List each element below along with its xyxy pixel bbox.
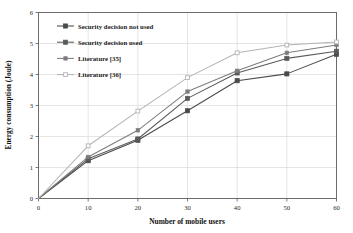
data-point-marker-3-1: [86, 155, 89, 158]
x-tick-label: 60: [333, 204, 340, 211]
legend-item-2[interactable]: Security decision used: [57, 39, 142, 46]
data-point-marker-4-1: [86, 144, 90, 148]
data-point-marker-1-4: [235, 79, 239, 83]
x-tick-label: 50: [284, 204, 291, 211]
y-tick-label: 3: [30, 102, 34, 109]
legend-label-3: Literature [35]: [78, 55, 121, 63]
series-group: [39, 40, 339, 198]
legend-label-2: Security decision used: [78, 39, 142, 46]
chart-canvas: 0123456 0102030405060 Number of mobile u…: [0, 0, 353, 233]
data-point-marker-legend-3: [64, 57, 67, 60]
data-point-marker-4-6: [335, 40, 339, 44]
data-point-marker-4-3: [186, 76, 190, 80]
x-axis-ticks: 0102030405060: [37, 199, 341, 211]
data-point-marker-2-6: [334, 49, 338, 53]
legend-item-3[interactable]: Literature [35]: [57, 55, 121, 63]
data-point-marker-3-4: [235, 69, 238, 72]
data-point-marker-3-5: [285, 51, 288, 54]
data-point-marker-legend-1: [63, 24, 67, 28]
data-point-marker-4-2: [136, 109, 140, 113]
x-tick-label: 10: [85, 204, 92, 211]
x-axis-title: Number of mobile users: [149, 217, 225, 226]
legend: Security decision not usedSecurity decis…: [57, 23, 154, 80]
series-3: [39, 43, 339, 198]
y-tick-label: 0: [30, 195, 34, 202]
y-tick-label: 4: [30, 71, 34, 78]
y-axis-ticks: 0123456: [30, 9, 39, 202]
x-tick-label: 20: [135, 204, 142, 211]
y-tick-label: 5: [30, 40, 34, 47]
data-point-marker-3-3: [186, 90, 189, 93]
data-point-marker-legend-4: [64, 73, 68, 77]
data-point-marker-1-3: [185, 109, 189, 113]
data-point-marker-1-5: [285, 72, 289, 76]
y-tick-label: 2: [30, 133, 33, 140]
y-axis-title: Energy consumption (Joule): [4, 60, 13, 150]
energy-consumption-chart: 0123456 0102030405060 Number of mobile u…: [0, 0, 353, 233]
data-point-marker-4-4: [235, 51, 239, 55]
legend-item-1[interactable]: Security decision not used: [57, 23, 154, 30]
data-point-marker-4-5: [285, 43, 289, 47]
y-tick-label: 6: [30, 9, 34, 16]
x-tick-label: 40: [234, 204, 241, 211]
y-tick-label: 1: [30, 164, 33, 171]
data-point-marker-legend-2: [63, 40, 67, 44]
x-tick-label: 30: [184, 204, 191, 211]
legend-label-1: Security decision not used: [78, 23, 154, 30]
x-tick-label: 0: [37, 204, 41, 211]
data-point-marker-2-3: [185, 96, 189, 100]
data-point-marker-3-2: [136, 129, 139, 132]
data-point-marker-2-2: [136, 137, 140, 141]
legend-label-4: Literature [36]: [78, 71, 121, 79]
series-4: [39, 40, 339, 198]
legend-item-4[interactable]: Literature [36]: [57, 71, 121, 79]
data-point-marker-2-5: [285, 56, 289, 60]
